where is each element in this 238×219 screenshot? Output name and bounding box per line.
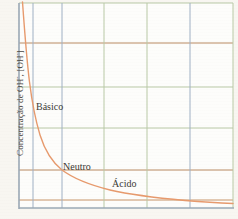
- chart-plot-svg: [0, 0, 238, 219]
- plot-area-background: [19, 3, 233, 208]
- chart-figure: Concentração de OH-, [OH-] Básico Neutro…: [0, 0, 238, 219]
